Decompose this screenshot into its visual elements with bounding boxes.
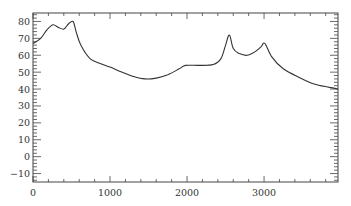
x-tick-label: 0 [30, 187, 36, 198]
x-tick-label: 3000 [252, 187, 276, 198]
line-chart: 0100020003000 −1001020304050607080 [0, 0, 351, 206]
y-tick-label: 80 [18, 16, 30, 27]
y-tick-label: 30 [18, 100, 30, 111]
y-tick-label: 0 [24, 151, 30, 162]
data-line [33, 21, 338, 89]
plot-frame [33, 13, 338, 182]
x-tick-label: 1000 [98, 187, 122, 198]
y-tick-label: 10 [18, 134, 30, 145]
x-tick-label: 2000 [175, 187, 199, 198]
axis-ticks [33, 13, 338, 182]
y-tick-label: 40 [18, 84, 30, 95]
y-tick-label: 70 [18, 33, 30, 44]
y-axis-tick-labels: −1001020304050607080 [10, 16, 30, 179]
y-tick-label: 60 [18, 50, 30, 61]
x-axis-tick-labels: 0100020003000 [30, 187, 276, 198]
y-tick-label: 20 [18, 117, 30, 128]
y-tick-label: −10 [10, 168, 30, 179]
y-tick-label: 50 [18, 67, 30, 78]
